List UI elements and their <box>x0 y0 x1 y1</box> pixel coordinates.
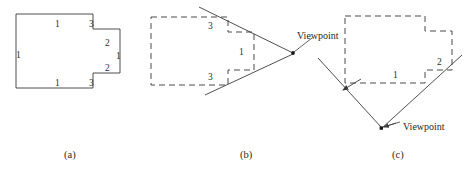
panel-a-edge-label: 2 <box>105 39 110 49</box>
panel-a-edge-label: 3 <box>89 79 94 89</box>
panel-b-ray-lower <box>205 54 293 95</box>
panel-b-edge-label: 1 <box>239 48 244 58</box>
panel-a-edge-label: 1 <box>116 52 121 62</box>
panel-b-shape <box>151 7 312 95</box>
panel-a-edge-label: 1 <box>55 79 60 89</box>
panel-caption-b: (b) <box>240 150 252 161</box>
panel-c-shape <box>318 16 462 130</box>
panel-a-edge-label: 2 <box>105 64 110 74</box>
panel-b-viewpoint-label: Viewpoint <box>297 31 339 41</box>
panel-c-edge-label: 2 <box>437 58 442 68</box>
panel-a-polygon-outline <box>16 14 120 88</box>
panel-c-viewpoint-dot <box>380 126 383 129</box>
panel-c-edge-label: 1 <box>393 71 398 81</box>
panel-a-shape <box>16 14 120 88</box>
panel-b-edge-label: 3 <box>208 73 213 83</box>
panel-b-edge-label: 3 <box>208 22 213 32</box>
figure-container: 1 3 1 2 1 2 1 3 3 1 3 Viewpoint 1 2 View… <box>0 0 475 171</box>
panel-b-ray-upper <box>199 7 293 53</box>
panel-c-viewpoint-label: Viewpoint <box>403 122 445 132</box>
panel-a-edge-label: 1 <box>55 20 60 30</box>
figure-canvas <box>0 0 475 171</box>
panel-c-ray-left-arrowhead <box>343 79 361 90</box>
panel-b-viewpoint-dot <box>291 51 295 55</box>
panel-c-polygon-outline <box>345 16 452 83</box>
panel-c-ray-right <box>382 55 462 128</box>
panel-c-ray-left <box>318 58 381 127</box>
panel-caption-a: (a) <box>64 150 76 161</box>
panel-a-edge-label: 3 <box>89 20 94 30</box>
panel-a-edge-label: 1 <box>16 51 21 61</box>
panel-caption-c: (c) <box>392 150 404 161</box>
